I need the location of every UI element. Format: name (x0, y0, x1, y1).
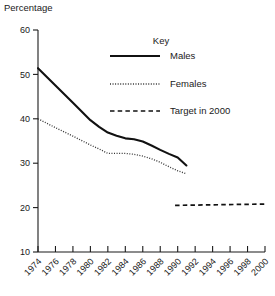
series-line-target (175, 204, 265, 205)
x-tick-group: 1974197619781980198219841986198819901992… (22, 246, 270, 278)
x-tick-label: 1976 (40, 256, 61, 277)
legend-label-females: Females (170, 78, 207, 89)
x-tick-label: 1978 (57, 256, 78, 277)
x-tick-label: 1984 (109, 256, 130, 277)
x-tick-label: 1990 (162, 256, 183, 277)
y-tick-label: 40 (20, 114, 30, 124)
x-tick-label: 1982 (92, 256, 113, 277)
axes-group (38, 30, 265, 252)
chart-plot-area: 102030405060 197419761978198019821984198… (0, 0, 275, 296)
y-tick-label: 20 (20, 203, 30, 213)
x-tick-label: 1992 (179, 256, 200, 277)
series-line-females (38, 119, 186, 174)
x-tick-label: 1994 (197, 256, 218, 277)
x-tick-label: 1998 (232, 256, 253, 277)
series-line-males (38, 68, 186, 165)
x-tick-label: 2000 (249, 256, 270, 277)
x-tick-label: 1974 (22, 256, 43, 277)
x-tick-label: 1980 (75, 256, 96, 277)
legend-label-males: Males (170, 50, 196, 61)
legend-label-target: Target in 2000 (170, 105, 230, 116)
data-series-group (38, 68, 265, 205)
x-tick-label: 1996 (214, 256, 235, 277)
y-tick-group: 102030405060 (20, 25, 38, 257)
x-tick-label: 1988 (144, 256, 165, 277)
y-tick-label: 50 (20, 70, 30, 80)
y-tick-label: 30 (20, 158, 30, 168)
y-tick-label: 60 (20, 25, 30, 35)
y-tick-label: 10 (20, 247, 30, 257)
x-tick-label: 1986 (127, 256, 148, 277)
chart-legend: Key Males Females Target in 2000 (110, 35, 230, 116)
legend-title: Key (153, 35, 170, 46)
chart-figure: Percentage 102030405060 1974197619781980… (0, 0, 275, 296)
